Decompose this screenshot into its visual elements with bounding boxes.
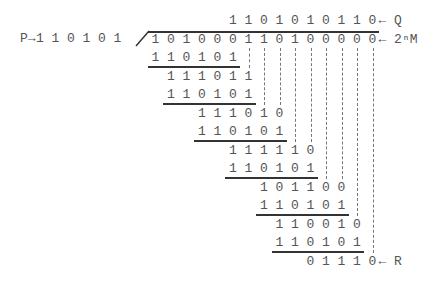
- divisor-digit: 1: [50, 32, 62, 45]
- subtrahend-digit: 0: [258, 125, 270, 138]
- final-remainder-digit: 1: [320, 255, 332, 268]
- remainder-digit: 1: [243, 70, 255, 83]
- subtrahend-digit: 1: [305, 162, 317, 175]
- remainder-digit: 1: [165, 70, 177, 83]
- subtrahend-digit: 1: [196, 51, 208, 64]
- remainder-digit: 1: [227, 144, 239, 157]
- subtrahend-digit: 1: [243, 88, 255, 101]
- bring-down-dashed-line: [264, 48, 265, 105]
- dividend-digit: 1: [181, 33, 193, 46]
- divisor-digit: 0: [96, 32, 108, 45]
- dividend-digit: 0: [351, 33, 363, 46]
- subtraction-line: [225, 177, 318, 179]
- subtrahend-digit: 0: [227, 88, 239, 101]
- subtraction-line: [148, 66, 241, 68]
- bring-down-dashed-line: [280, 48, 281, 105]
- bring-down-dashed-line: [295, 48, 296, 142]
- final-remainder-digit: 1: [351, 255, 363, 268]
- dividend-digit: 0: [227, 33, 239, 46]
- subtrahend-digit: 0: [320, 199, 332, 212]
- dividend-digit: 0: [336, 33, 348, 46]
- remainder-digit: 1: [227, 107, 239, 120]
- remainder-digit: 0: [212, 70, 224, 83]
- subtrahend-digit: 1: [305, 199, 317, 212]
- remainder-digit: 1: [196, 70, 208, 83]
- remainder-digit: 1: [258, 144, 270, 157]
- dividend-digit: 1: [150, 33, 162, 46]
- final-remainder-digit: 0: [367, 255, 379, 268]
- dividend-digit: 0: [367, 33, 379, 46]
- remainder-digit: 0: [336, 181, 348, 194]
- remainder-digit: 1: [181, 70, 193, 83]
- dividend-digit: 0: [196, 33, 208, 46]
- dividend-digit: 0: [165, 33, 177, 46]
- subtrahend-digit: 0: [258, 162, 270, 175]
- dividend-digit: 0: [320, 33, 332, 46]
- subtrahend-digit: 1: [258, 199, 270, 212]
- subtraction-line: [194, 140, 287, 142]
- subtraction-line: [256, 214, 349, 216]
- subtraction-line: [163, 103, 256, 105]
- dividend-digit: 1: [258, 33, 270, 46]
- bring-down-dashed-line: [357, 48, 358, 216]
- subtrahend-digit: 0: [212, 51, 224, 64]
- subtrahend-digit: 0: [305, 236, 317, 249]
- subtrahend-digit: 0: [289, 199, 301, 212]
- subtrahend-digit: 0: [181, 51, 193, 64]
- remainder-digit: 0: [351, 218, 363, 231]
- final-remainder-digit: 1: [336, 255, 348, 268]
- remainder-digit: 0: [320, 181, 332, 194]
- dividend-digit: 0: [274, 33, 286, 46]
- subtrahend-digit: 0: [196, 88, 208, 101]
- subtrahend-digit: 1: [212, 88, 224, 101]
- subtrahend-digit: 1: [165, 51, 177, 64]
- remainder-digit: 1: [227, 70, 239, 83]
- subtrahend-digit: 0: [336, 236, 348, 249]
- bring-down-dashed-line: [311, 48, 312, 142]
- dividend-digit: 0: [305, 33, 317, 46]
- subtrahend-digit: 1: [150, 51, 162, 64]
- divisor-digit: 1: [34, 32, 46, 45]
- remainder-digit: 1: [289, 181, 301, 194]
- bring-down-dashed-line: [373, 48, 374, 253]
- remainder-digit: 0: [305, 144, 317, 157]
- subtrahend-digit: 1: [243, 162, 255, 175]
- remainder-digit: 1: [289, 218, 301, 231]
- remainder-digit: 0: [274, 107, 286, 120]
- subtrahend-digit: 1: [351, 236, 363, 249]
- dividend-digit: 0: [212, 33, 224, 46]
- dividend-digit: 1: [243, 33, 255, 46]
- remainder-digit: 1: [258, 107, 270, 120]
- subtrahend-digit: 1: [227, 51, 239, 64]
- divisor-digit: 1: [81, 32, 93, 45]
- subtrahend-digit: 1: [165, 88, 177, 101]
- remainder-digit: 1: [289, 144, 301, 157]
- remainder-digit: 1: [243, 144, 255, 157]
- dividend-label: ← 2ⁿM: [379, 33, 418, 46]
- subtrahend-digit: 1: [289, 236, 301, 249]
- subtrahend-digit: 0: [289, 162, 301, 175]
- subtrahend-digit: 1: [243, 125, 255, 138]
- bring-down-dashed-line: [326, 48, 327, 179]
- division-slash-line: [136, 31, 149, 46]
- bring-down-dashed-line: [342, 48, 343, 179]
- remainder-digit: 0: [305, 218, 317, 231]
- subtrahend-digit: 0: [227, 125, 239, 138]
- remainder-digit: 1: [274, 218, 286, 231]
- remainder-label: ← R: [379, 255, 402, 268]
- divisor-digit: 0: [65, 32, 77, 45]
- bring-down-dashed-line: [249, 48, 250, 68]
- remainder-digit: 1: [274, 144, 286, 157]
- remainder-digit: 1: [196, 107, 208, 120]
- divisor-digit: 1: [112, 32, 124, 45]
- remainder-digit: 0: [320, 218, 332, 231]
- remainder-digit: 0: [274, 181, 286, 194]
- remainder-digit: 1: [336, 218, 348, 231]
- subtrahend-digit: 1: [274, 199, 286, 212]
- subtrahend-digit: 1: [274, 162, 286, 175]
- subtrahend-digit: 1: [320, 236, 332, 249]
- remainder-digit: 1: [305, 181, 317, 194]
- dividend-digit: 1: [289, 33, 301, 46]
- remainder-digit: 1: [258, 181, 270, 194]
- subtrahend-digit: 1: [274, 125, 286, 138]
